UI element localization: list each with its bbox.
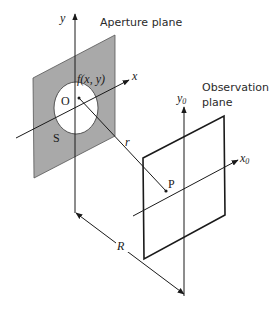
aperture-plane-title: Aperture plane [100, 16, 182, 29]
aperture-point-dot [78, 97, 81, 100]
aperture-region-label: S [53, 131, 60, 145]
aperture-function-label: f(x, y) [77, 72, 105, 86]
observation-plane-title-line2: plane [202, 96, 233, 109]
R-distance-arrow [76, 213, 184, 294]
y-axis-label: y [59, 11, 66, 25]
origin-label: O [61, 94, 70, 108]
aperture-opening [54, 82, 98, 134]
R-label: R [116, 239, 125, 253]
x-axis-label: x [131, 69, 138, 83]
observation-plane-title-line1: Observation [202, 81, 269, 94]
x0-axis [133, 160, 238, 216]
diffraction-diagram: Aperture plane Observation plane y x y0 … [0, 0, 278, 313]
x0-axis-label: x0 [239, 151, 249, 166]
r-label: r [125, 135, 130, 149]
point-p-label: P [168, 177, 175, 191]
y0-axis-label: y0 [176, 91, 186, 106]
